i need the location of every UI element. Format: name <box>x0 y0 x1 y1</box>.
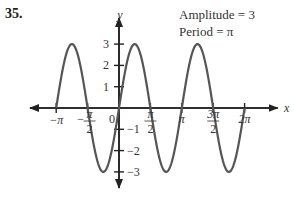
svg-text:−3: −3 <box>127 165 140 179</box>
svg-text:2: 2 <box>103 58 109 72</box>
svg-text:π: π <box>179 112 186 126</box>
svg-text:2: 2 <box>87 122 93 136</box>
svg-text:3: 3 <box>103 37 109 51</box>
svg-text:π: π <box>87 107 94 121</box>
svg-text:2: 2 <box>210 122 216 136</box>
svg-text:x: x <box>283 101 290 115</box>
svg-text:−π: −π <box>49 113 64 127</box>
axes <box>30 18 278 188</box>
svg-text:−2: −2 <box>127 144 140 158</box>
sine-graph: −π−π20π2π3π22π321−1−2−3yx <box>0 0 294 198</box>
svg-text:1: 1 <box>103 80 109 94</box>
svg-text:π: π <box>147 107 154 121</box>
svg-text:−: − <box>77 112 84 126</box>
svg-text:0: 0 <box>109 112 115 126</box>
svg-text:−1: −1 <box>127 122 140 136</box>
svg-text:y: y <box>116 8 123 22</box>
svg-text:2π: 2π <box>239 112 252 126</box>
svg-text:2: 2 <box>147 122 153 136</box>
svg-text:3π: 3π <box>206 107 220 121</box>
